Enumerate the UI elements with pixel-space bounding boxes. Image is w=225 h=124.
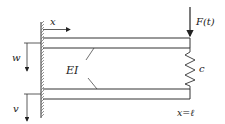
upper-beam [43,38,190,48]
ei-leader-upper [86,48,94,60]
fixed-wall [41,21,44,118]
spring: c [185,48,205,89]
end-position-label: x=ℓ [177,107,194,118]
ei-label: EI [65,64,79,77]
lower-beam [43,89,190,99]
w-label: w [12,52,21,63]
force-arrow: F(t) [190,7,215,36]
beam-diagram: x F(t) c EI w v x=ℓ [0,0,225,124]
force-label: F(t) [195,16,215,27]
ei-leader-lower [88,78,97,89]
spring-label: c [199,63,205,74]
x-axis-arrow: x [43,16,70,30]
v-displacement-arrow: v [13,94,41,121]
x-axis-label: x [50,16,56,27]
w-displacement-arrow: w [12,43,41,71]
v-label: v [13,103,19,114]
ei-annotation: EI [65,48,97,89]
